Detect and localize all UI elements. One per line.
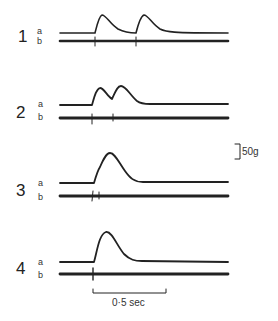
force-scale-label: 50g <box>242 147 259 157</box>
traces-plot <box>0 0 278 321</box>
time-scale-label: 0·5 sec <box>112 298 145 308</box>
trace-1a <box>60 15 228 33</box>
trace-4a <box>60 232 228 262</box>
trace-2a <box>60 86 228 105</box>
force-scale-bar <box>235 144 240 159</box>
trace-3a <box>60 153 228 183</box>
time-scale-bar <box>93 289 166 293</box>
